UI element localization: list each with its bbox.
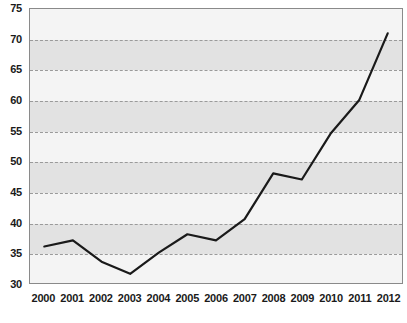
y-tick-label: 35: [10, 247, 22, 259]
x-tick-label: 2009: [290, 292, 314, 304]
x-axis: 2000200120022003200420052006200720082009…: [29, 288, 403, 308]
x-tick-label: 2002: [89, 292, 113, 304]
line-chart: 30354045505560657075 2000200120022003200…: [0, 0, 407, 323]
x-tick-label: 2005: [175, 292, 199, 304]
plot-area: [29, 8, 403, 284]
y-tick-label: 45: [10, 186, 22, 198]
x-tick-label: 2001: [60, 292, 84, 304]
y-tick-label: 60: [10, 94, 22, 106]
x-tick-label: 2007: [233, 292, 257, 304]
x-tick-label: 2008: [262, 292, 286, 304]
y-tick-label: 40: [10, 217, 22, 229]
y-tick-label: 75: [10, 2, 22, 14]
x-tick-label: 2003: [118, 292, 142, 304]
x-tick-label: 2011: [348, 292, 371, 304]
x-tick-label: 2012: [377, 292, 401, 304]
y-tick-label: 70: [10, 33, 22, 45]
x-tick-label: 2000: [32, 292, 56, 304]
series-polyline: [44, 33, 387, 274]
y-tick-label: 65: [10, 63, 22, 75]
y-tick-label: 50: [10, 155, 22, 167]
x-tick-label: 2006: [204, 292, 228, 304]
y-axis: 30354045505560657075: [0, 0, 26, 290]
y-tick-label: 55: [10, 125, 22, 137]
x-tick-label: 2004: [147, 292, 171, 304]
y-tick-label: 30: [10, 278, 22, 290]
series-line: [30, 9, 402, 283]
x-tick-label: 2010: [319, 292, 343, 304]
